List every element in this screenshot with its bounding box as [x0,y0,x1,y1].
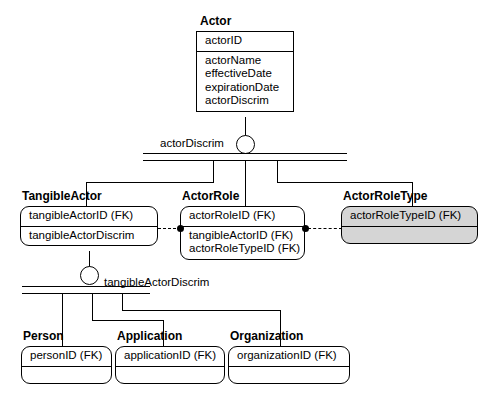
entity-person-attributes [22,367,111,383]
branch-stem-application [92,293,93,321]
entity-title-organization: Organization [230,329,303,343]
entity-title-tangible-actor: TangibleActor [22,189,102,203]
branch-stem-actor-role-type [277,160,278,183]
attribute: actorName [205,54,285,68]
er-diagram-canvas: Actor actorID actorName effectiveDate ex… [0,0,496,419]
entity-title-person: Person [23,329,64,343]
entity-organization-attributes [229,367,349,383]
entity-actor-role-attributes: tangibleActorID (FK) actorRoleTypeID (FK… [181,227,304,259]
attribute: actorDiscrim [205,94,285,108]
branch-drop-actor-role [245,160,246,206]
entity-title-actor-role: ActorRole [182,189,239,203]
entity-tangible-actor: tangibleActorID (FK) tangibleActorDiscri… [20,206,158,246]
entity-organization-key: organizationID (FK) [229,347,349,367]
entity-actor-role: actorRoleID (FK) tangibleActorID (FK) ac… [180,206,305,260]
entity-title-application: Application [117,329,182,343]
relationship-actor-role-actor-role-type [308,228,342,229]
entity-actor-role-type-attributes [342,227,477,243]
branch-stem-tangible-actor [213,160,214,183]
attribute: expirationDate [205,81,285,95]
entity-actor: actorID actorName effectiveDate expirati… [196,31,294,112]
entity-application-key: applicationID (FK) [116,347,224,367]
entity-actor-role-type: actorRoleTypeID (FK) [341,206,478,244]
attribute: tangibleActorDiscrim [29,229,149,243]
entity-tangible-actor-attributes: tangibleActorDiscrim [21,227,157,246]
generalization-bar-lower-2 [22,293,150,294]
entity-title-actor: Actor [200,14,231,28]
discriminator-circle-tangible-actor [80,266,99,285]
generalization-bar-upper-1 [143,153,347,154]
branch-run-actor-role-type [277,182,413,183]
entity-actor-key: actorID [197,32,293,52]
entity-application: applicationID (FK) [115,346,225,384]
generalization-bar-upper-2 [22,286,150,287]
discriminator-circle-actor [236,135,255,154]
entity-tangible-actor-key: tangibleActorID (FK) [21,207,157,227]
branch-stem-organization [122,293,123,311]
attribute: effectiveDate [205,67,285,81]
branch-run-application [92,320,164,321]
entity-organization: organizationID (FK) [228,346,350,384]
attribute: actorRoleTypeID (FK) [189,242,296,256]
entity-person-key: personID (FK) [22,347,111,367]
branch-run-organization [122,310,281,311]
relationship-marker-actor-role-left [177,225,184,232]
branch-run-tangible-actor [86,182,214,183]
entity-title-actor-role-type: ActorRoleType [343,189,427,203]
discriminator-label-actor: actorDiscrim [160,137,224,149]
entity-application-attributes [116,367,224,383]
entity-actor-attributes: actorName effectiveDate expirationDate a… [197,52,293,111]
entity-actor-role-key: actorRoleID (FK) [181,207,304,227]
entity-person: personID (FK) [21,346,112,384]
attribute: tangibleActorID (FK) [189,229,296,243]
entity-actor-role-type-key: actorRoleTypeID (FK) [342,207,477,227]
